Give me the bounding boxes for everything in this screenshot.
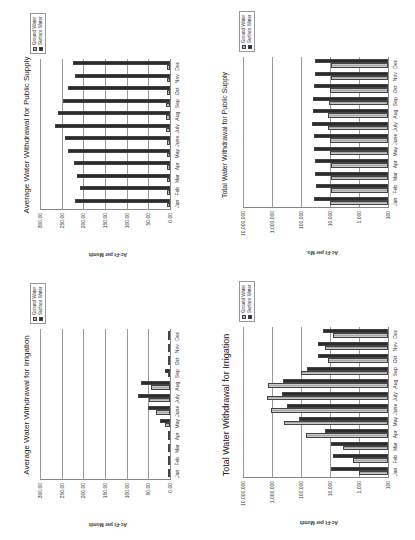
ground-water-bar bbox=[284, 421, 388, 425]
y-tick-label: 50.00 bbox=[145, 213, 151, 247]
ground-water-bar bbox=[353, 458, 388, 462]
y-tick-label: 100.00 bbox=[124, 213, 130, 247]
chart-total-public-supply: Total Water Withdrawal for Public Supply… bbox=[205, 0, 415, 270]
ground-water-bar bbox=[149, 398, 170, 402]
plot-area bbox=[243, 57, 389, 208]
ground-water-bar bbox=[167, 178, 170, 182]
y-tick-label: 250.00 bbox=[59, 213, 65, 247]
gridline bbox=[148, 329, 149, 479]
plot-area bbox=[40, 329, 171, 480]
ground-water-bar bbox=[167, 165, 170, 169]
ground-water-bar bbox=[330, 88, 388, 92]
ground-water-bar bbox=[331, 176, 388, 180]
ground-water-bar bbox=[168, 473, 170, 477]
ground-water-bar bbox=[268, 383, 388, 387]
surface-water-bar bbox=[318, 342, 388, 346]
surface-water-bar bbox=[165, 369, 170, 373]
ground-water-bar bbox=[167, 153, 170, 157]
ground-water-bar bbox=[306, 433, 389, 437]
y-tick-label: 1,000 bbox=[356, 211, 362, 245]
surface-water-bar bbox=[168, 456, 170, 460]
surface-water-bar bbox=[74, 161, 170, 165]
surface-water-bar bbox=[168, 469, 170, 473]
surface-water-bar bbox=[55, 124, 170, 128]
ground-water-bar bbox=[167, 90, 170, 94]
surface-water-bar bbox=[58, 111, 170, 115]
y-axis-label: Ac-Ft per Month bbox=[89, 252, 127, 258]
surface-water-bar bbox=[282, 392, 388, 396]
legend-label: Surface Water bbox=[247, 14, 253, 43]
surface-water-swatch-icon bbox=[248, 45, 252, 49]
surface-water-bar bbox=[315, 59, 388, 63]
ground-water-bar bbox=[156, 410, 170, 414]
gridline bbox=[272, 57, 273, 207]
y-tick-label: 10,000,000 bbox=[240, 481, 246, 515]
y-tick-label: 10,000,000 bbox=[240, 211, 246, 245]
y-axis-label: Ac-Ft per Month bbox=[89, 522, 127, 528]
ground-water-bar bbox=[267, 396, 388, 400]
surface-water-bar bbox=[307, 367, 388, 371]
surface-water-bar bbox=[160, 419, 170, 423]
ground-water-bar bbox=[301, 371, 388, 375]
ground-water-bar bbox=[271, 408, 388, 412]
surface-water-bar bbox=[73, 61, 171, 65]
ground-water-bar bbox=[166, 115, 170, 119]
surface-water-bar bbox=[315, 72, 388, 76]
ground-water-bar bbox=[167, 140, 170, 144]
y-tick-label: 10,000 bbox=[327, 211, 333, 245]
ground-water-bar bbox=[167, 78, 170, 82]
surface-water-bar bbox=[80, 186, 170, 190]
x-tick-label: Dec bbox=[392, 56, 398, 72]
gridline bbox=[62, 329, 63, 479]
y-axis-label: Ac-Ft per Month bbox=[299, 520, 337, 526]
ground-water-bar bbox=[328, 126, 388, 130]
y-tick-label: 100 bbox=[385, 481, 391, 515]
surface-water-swatch-icon bbox=[248, 315, 252, 319]
ground-water-bar bbox=[325, 346, 388, 350]
surface-water-legend-item: Surface Water bbox=[38, 286, 44, 321]
ground-water-bar bbox=[168, 360, 170, 364]
ground-water-bar bbox=[151, 385, 170, 389]
ground-water-bar bbox=[328, 358, 388, 362]
surface-water-bar bbox=[68, 86, 170, 90]
ground-water-bar bbox=[359, 471, 388, 475]
y-tick-label: 1,000,000 bbox=[269, 481, 275, 515]
y-tick-label: 250.00 bbox=[59, 483, 65, 517]
surface-water-bar bbox=[314, 84, 388, 88]
legend-label: Surface Water bbox=[247, 284, 253, 313]
ground-water-bar bbox=[168, 335, 170, 339]
surface-water-bar bbox=[313, 97, 388, 101]
surface-water-bar bbox=[314, 134, 388, 138]
ground-water-bar bbox=[166, 103, 170, 107]
y-tick-label: 1,000,000 bbox=[269, 211, 275, 245]
ground-water-bar bbox=[331, 76, 388, 80]
gridline bbox=[301, 327, 302, 477]
rotated-page: Average Water Withdrawal for Public Supp… bbox=[0, 0, 415, 540]
surface-water-bar bbox=[331, 467, 388, 471]
surface-water-bar bbox=[77, 174, 170, 178]
surface-water-bar bbox=[313, 109, 388, 113]
surface-water-bar bbox=[138, 394, 170, 398]
ground-water-bar bbox=[330, 201, 388, 205]
surface-water-legend-item: Surface Water bbox=[38, 16, 44, 51]
surface-water-bar bbox=[299, 417, 388, 421]
y-tick-label: 200.00 bbox=[80, 483, 86, 517]
surface-water-bar bbox=[315, 172, 388, 176]
ground-water-bar bbox=[168, 460, 170, 464]
gridline bbox=[40, 329, 41, 479]
ground-water-bar bbox=[331, 63, 388, 67]
ground-water-swatch-icon bbox=[242, 315, 246, 319]
surface-water-bar bbox=[168, 356, 170, 360]
y-tick-label: 200.00 bbox=[80, 213, 86, 247]
surface-water-bar bbox=[314, 147, 388, 151]
y-tick-label: 300.00 bbox=[37, 213, 43, 247]
surface-water-bar bbox=[325, 429, 388, 433]
surface-water-bar bbox=[333, 454, 388, 458]
chart-legend: Ground WaterSurface Water bbox=[239, 281, 255, 322]
surface-water-swatch-icon bbox=[39, 47, 43, 51]
gridline bbox=[272, 327, 273, 477]
gridline bbox=[83, 329, 84, 479]
x-tick-label: Dec bbox=[174, 58, 180, 74]
ground-water-bar bbox=[330, 151, 388, 155]
surface-water-bar bbox=[314, 197, 388, 201]
